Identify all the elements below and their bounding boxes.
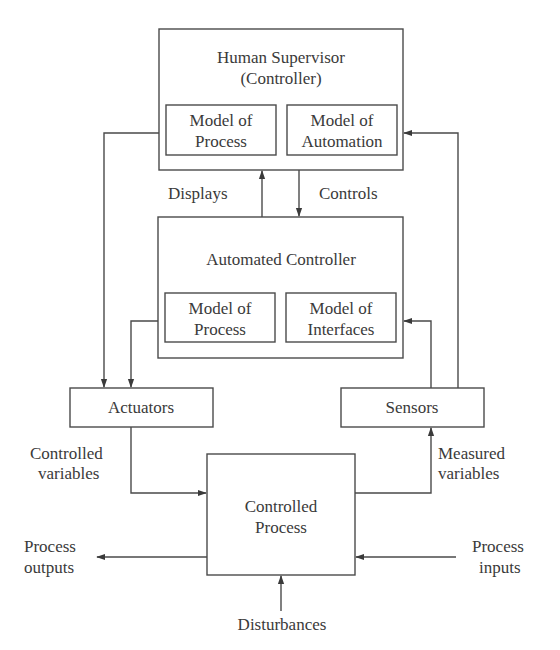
control-loop-diagram: Human Supervisor (Controller) Model of P… <box>0 0 560 650</box>
ac-model-process-line2: Process <box>194 320 246 339</box>
controlled-process-line2: Process <box>255 518 307 537</box>
hs-model-process-line2: Process <box>195 132 247 151</box>
displays-label: Displays <box>168 184 228 203</box>
ac-model-process-line1: Model of <box>189 299 252 318</box>
controls-label: Controls <box>319 184 378 203</box>
actuators-label: Actuators <box>108 398 174 417</box>
hs-model-of-automation-box: Model of Automation <box>287 105 397 155</box>
automated-controller-title: Automated Controller <box>206 250 356 269</box>
automated-controller-box: Automated Controller Model of Process Mo… <box>158 217 403 358</box>
hs-model-automation-line2: Automation <box>301 132 383 151</box>
process-inputs-label-1: Process <box>472 537 524 556</box>
sensors-box: Sensors <box>341 388 484 427</box>
human-supervisor-box: Human Supervisor (Controller) Model of P… <box>159 29 403 170</box>
human-supervisor-subtitle: (Controller) <box>240 69 321 88</box>
hs-model-of-process-box: Model of Process <box>166 105 276 155</box>
ac-model-of-process-box: Model of Process <box>165 293 275 342</box>
hs-model-process-line1: Model of <box>190 111 253 130</box>
controlled-process-line1: Controlled <box>245 497 318 516</box>
ac-model-interfaces-line1: Model of <box>310 299 373 318</box>
sensors-to-ac-arrow <box>404 321 431 388</box>
process-outputs-label-2: outputs <box>24 558 74 577</box>
hs-model-automation-line1: Model of <box>311 111 374 130</box>
controlled-variables-label-1: Controlled <box>30 444 103 463</box>
process-inputs-label-2: inputs <box>479 558 521 577</box>
measured-variables-arrow <box>355 428 431 493</box>
actuators-box: Actuators <box>70 388 213 427</box>
ac-model-interfaces-line2: Interfaces <box>307 320 374 339</box>
controlled-variables-label-2: variables <box>38 464 99 483</box>
measured-variables-label-2: variables <box>438 464 499 483</box>
measured-variables-label-1: Measured <box>438 444 506 463</box>
controlled-process-box: Controlled Process <box>207 454 355 575</box>
ac-to-actuators-arrow <box>131 321 158 387</box>
human-supervisor-title: Human Supervisor <box>217 48 345 67</box>
controlled-variables-arrow <box>131 427 206 493</box>
process-outputs-label-1: Process <box>24 537 76 556</box>
disturbances-label: Disturbances <box>238 615 327 634</box>
sensors-label: Sensors <box>386 398 439 417</box>
ac-model-of-interfaces-box: Model of Interfaces <box>286 293 396 342</box>
